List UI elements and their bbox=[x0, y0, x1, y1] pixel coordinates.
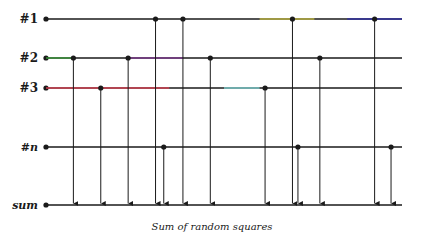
row-start-dot-rown bbox=[43, 144, 48, 149]
row-label-2: #2 bbox=[20, 51, 38, 65]
tap-dot-rown-1 bbox=[295, 144, 300, 149]
row-label-3: #3 bbox=[20, 81, 38, 95]
row-start-dot-sum bbox=[43, 202, 48, 207]
tap-dot-row2-3 bbox=[317, 55, 322, 60]
tap-dot-row2-2 bbox=[208, 55, 213, 60]
tap-dot-row3-0 bbox=[98, 85, 103, 90]
row-label-1: #1 bbox=[20, 12, 38, 26]
tap-dot-row3-1 bbox=[262, 85, 267, 90]
tap-dot-rown-0 bbox=[161, 144, 166, 149]
sum-of-random-squares-diagram: #1 #2 #3 #n sum Sum of random squares bbox=[0, 0, 425, 240]
tap-dot-row1-0 bbox=[153, 16, 158, 21]
row-start-dot-row1 bbox=[43, 16, 48, 21]
tap-dot-row2-1 bbox=[126, 55, 131, 60]
tap-dot-row1-3 bbox=[372, 16, 377, 21]
tap-dot-rown-2 bbox=[388, 144, 393, 149]
row-label-sum: sum bbox=[12, 199, 38, 212]
row-label-n: #n bbox=[21, 141, 38, 154]
diagram-caption: Sum of random squares bbox=[152, 221, 273, 232]
tap-dot-row1-2 bbox=[290, 16, 295, 21]
tap-dot-row2-0 bbox=[71, 55, 76, 60]
tap-dot-row1-1 bbox=[180, 16, 185, 21]
